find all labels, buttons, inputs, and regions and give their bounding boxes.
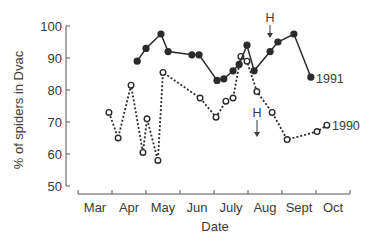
data-point-1990 [160, 70, 166, 76]
harvest-label-top: H [265, 11, 274, 25]
data-point-1990 [269, 110, 275, 116]
x-tick-label: Apr [119, 200, 140, 215]
harvest-marker-1990: H [252, 106, 261, 137]
data-point-1990 [244, 58, 250, 64]
data-point-1991 [274, 38, 281, 45]
data-point-1990 [144, 116, 150, 122]
data-point-1990 [197, 95, 203, 101]
data-point-1991 [251, 67, 258, 74]
series-1990-line [106, 54, 330, 164]
y-tick-label: 80 [48, 83, 62, 98]
series-label-1990: 1990 [332, 119, 360, 133]
data-point-1990 [230, 95, 236, 101]
data-point-1990 [106, 110, 112, 116]
data-point-1991 [213, 77, 220, 84]
x-tick-label: Jun [187, 200, 208, 215]
y-tick-label: 70 [48, 115, 62, 130]
data-point-1990 [140, 150, 146, 156]
y-axis-label: % of spiders in Dvac [11, 50, 26, 169]
data-point-1991 [165, 48, 172, 55]
data-point-1990 [284, 137, 290, 143]
x-tick-label: Mar [84, 200, 107, 215]
x-tick-label: May [151, 200, 176, 215]
data-point-1991 [195, 51, 202, 58]
x-tick-label: Oct [323, 200, 344, 215]
x-tick-label: Aug [253, 200, 276, 215]
data-point-1990 [213, 114, 219, 120]
x-tick-label: Sept [286, 200, 313, 215]
series-label-1991: 1991 [316, 72, 344, 86]
series-1991-line [134, 30, 315, 84]
data-point-1991 [157, 30, 164, 37]
data-point-1991 [142, 45, 149, 52]
harvest-marker-1991: H [265, 11, 274, 38]
data-point-1991 [134, 58, 141, 65]
y-axis: 5060708090100 [40, 19, 70, 194]
data-point-1991 [267, 48, 274, 55]
data-point-1991 [236, 61, 243, 68]
data-point-1990 [115, 135, 121, 141]
data-point-1990 [128, 82, 134, 88]
data-point-1990 [314, 129, 320, 135]
data-point-1991 [220, 75, 227, 82]
y-tick-label: 60 [48, 147, 62, 162]
y-tick-label: 50 [48, 179, 62, 194]
data-point-1990 [223, 98, 229, 104]
chart: 5060708090100 MarAprMayJunJulyAugSeptOct… [0, 0, 376, 247]
arrowhead-icon [254, 132, 260, 137]
harvest-label-bottom: H [252, 106, 261, 120]
data-point-1991 [188, 51, 195, 58]
data-point-1990 [254, 89, 260, 95]
y-tick-label: 100 [40, 19, 62, 34]
data-point-1991 [307, 74, 314, 81]
data-point-1991 [243, 42, 250, 49]
x-axis: MarAprMayJunJulyAugSeptOct [78, 190, 350, 215]
y-tick-label: 90 [48, 51, 62, 66]
arrowhead-icon [267, 33, 273, 38]
data-point-1990 [155, 158, 161, 164]
data-point-1991 [290, 30, 297, 37]
data-point-1990 [324, 122, 330, 128]
x-axis-label: Date [201, 219, 228, 234]
x-tick-label: July [219, 200, 243, 215]
data-point-1991 [229, 67, 236, 74]
